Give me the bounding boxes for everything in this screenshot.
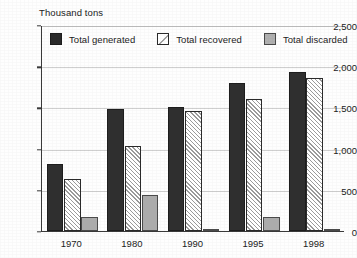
plot-area [41,26,344,232]
bar-1998-total-generated [289,72,306,231]
y-axis-tick-2500 [37,25,41,26]
bar-1990-total-recovered [185,111,202,231]
legend-label: Total generated [69,34,135,45]
bar-1995-total-generated [229,83,246,231]
legend-label: Total discarded [283,34,348,45]
bar-1980-total-recovered [125,146,142,231]
x-axis-label-1998: 1998 [303,238,324,249]
bar-1990-total-generated [168,107,185,231]
legend-entry-total-generated: Total generated [50,33,135,45]
bar-1998-total-recovered [306,78,323,231]
bar-1980-total-generated [107,109,124,231]
bar-1970-total-discarded [81,217,98,231]
y-axis-label-2500: 2,500 [321,21,357,32]
y-axis-tick-1500 [37,108,41,109]
bar-1995-total-discarded [263,217,280,231]
y-axis-tick-0 [37,231,41,232]
x-axis-label-1970: 1970 [61,238,82,249]
x-axis-label-1990: 1990 [182,238,203,249]
y-axis-tick-2000 [37,66,41,67]
gridline-2500 [42,26,345,27]
bar-1970-total-generated [47,164,64,231]
solid-dark-swatch [50,33,62,45]
bar-1980-total-discarded [142,195,159,231]
y-axis-tick-1000 [37,149,41,150]
y-axis-label-1500: 1,500 [321,103,357,114]
y-axis-label-1000: 1,000 [321,144,357,155]
bar-1998-total-discarded [324,229,341,231]
chart-legend: Total generatedTotal recoveredTotal disc… [50,33,348,45]
y-axis-label-2000: 2,000 [321,62,357,73]
bar-1970-total-recovered [64,179,81,231]
bar-1995-total-recovered [246,99,263,231]
y-axis-label-500: 500 [321,185,357,196]
legend-entry-total-recovered: Total recovered [157,33,242,45]
legend-entry-total-discarded: Total discarded [264,33,348,45]
bar-1990-total-discarded [203,229,220,231]
x-axis-label-1995: 1995 [243,238,264,249]
bar-chart: Thousand tons 05001,0001,5002,0002,500 1… [0,0,357,258]
y-axis-tick-500 [37,190,41,191]
solid-gray-swatch [264,33,276,45]
x-axis-label-1980: 1980 [121,238,142,249]
chart-axis-title: Thousand tons [39,7,103,18]
gridline-2000 [42,67,345,68]
hatched-swatch [157,33,169,45]
legend-label: Total recovered [176,34,242,45]
